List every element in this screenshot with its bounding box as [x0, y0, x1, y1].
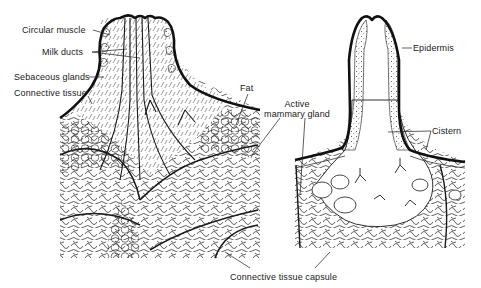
label-cistern: Cistern [432, 126, 461, 136]
mammary-gland-diagram: Circular muscle Milk ducts Sebaceous gla… [0, 0, 481, 288]
left-panel-drawing [60, 15, 260, 258]
label-active-mammary-gland: Active mammary gland [262, 99, 332, 119]
label-milk-ducts: Milk ducts [42, 47, 83, 57]
label-circular-muscle: Circular muscle [22, 25, 86, 35]
label-fat: Fat [240, 83, 253, 93]
label-epidermis: Epidermis [413, 43, 454, 53]
label-active-mammary-gland-line1: Active [262, 99, 332, 109]
label-sebaceous-glands: Sebaceous glands [14, 72, 90, 82]
label-connective-tissue: Connective tissue [14, 88, 87, 98]
diagram-artwork [0, 0, 481, 288]
label-connective-tissue-capsule: Connective tissue capsule [230, 272, 337, 282]
label-active-mammary-gland-line2: mammary gland [262, 109, 332, 119]
